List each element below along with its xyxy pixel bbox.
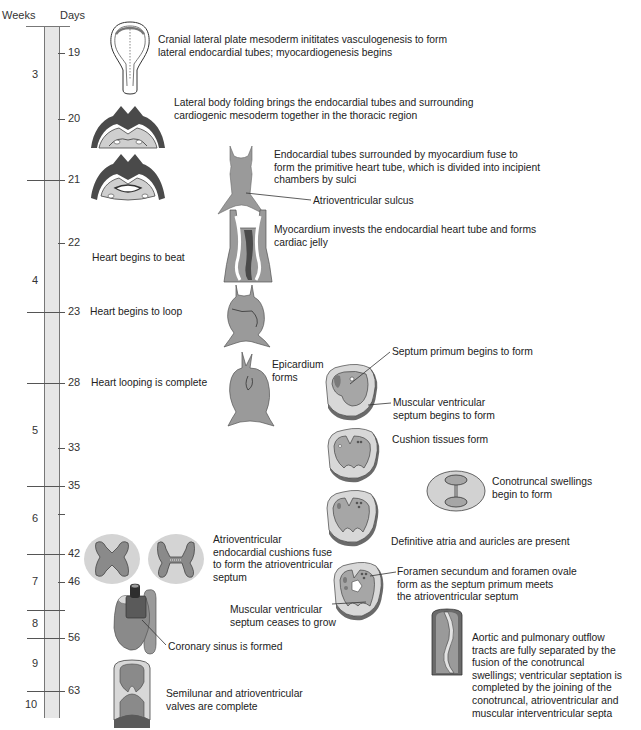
leader-lines — [0, 0, 641, 730]
